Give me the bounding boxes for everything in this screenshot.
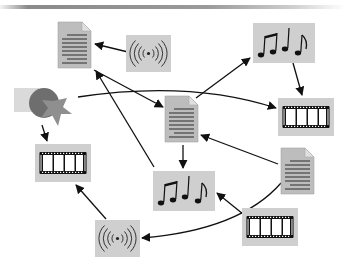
edge-radio2-film2: [76, 185, 106, 219]
edge-music1-film1: [293, 63, 302, 95]
film-strip-icon: [35, 144, 91, 182]
edge-film3-music2: [217, 193, 243, 214]
document-icon: [58, 22, 91, 68]
edge-doc2-music1: [196, 58, 250, 98]
shapes-icon: [14, 88, 72, 126]
film-strip-icon: [278, 98, 334, 136]
edge-radio1-doc1: [95, 44, 128, 52]
edge-shapes-film2: [42, 125, 47, 141]
diagram-canvas: [0, 0, 345, 268]
music-notes-icon: [253, 23, 315, 63]
edge-doc1-doc2: [94, 70, 163, 107]
music-notes-icon: [153, 171, 215, 211]
broadcast-icon: [95, 220, 140, 257]
edge-music2-doc1: [96, 71, 154, 167]
edge-doc3-doc2: [201, 135, 278, 164]
document-icon: [165, 96, 198, 142]
document-icon: [281, 148, 314, 194]
film-strip-icon: [242, 208, 298, 246]
broadcast-icon: [126, 35, 171, 72]
